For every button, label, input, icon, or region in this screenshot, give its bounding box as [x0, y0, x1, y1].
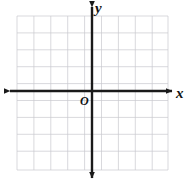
x-axis-label: x	[176, 86, 184, 101]
y-axis-label: y	[95, 1, 102, 16]
axis-lines	[0, 0, 190, 183]
origin-label: O	[80, 95, 89, 107]
coordinate-plane-figure: y x O	[0, 0, 190, 183]
